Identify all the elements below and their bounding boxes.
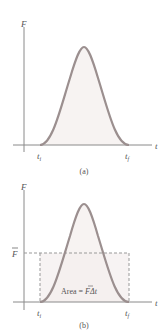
- y-axis-label-a: F: [20, 19, 27, 29]
- t-final-label-a: tf: [125, 151, 131, 162]
- average-force-label: F: [11, 249, 18, 259]
- panel-b: F F t ti tf Area = FΔt (b): [11, 182, 158, 330]
- x-axis-label-a: t: [155, 141, 158, 151]
- x-axis-label-b: t: [155, 298, 158, 308]
- panel-a: F t ti tf (a): [13, 19, 158, 176]
- t-initial-label-a: ti: [37, 151, 42, 162]
- impulse-figure: F t ti tf (a) F F t ti tf Area = FΔt (b): [0, 0, 167, 335]
- area-label: Area = FΔt: [61, 287, 98, 296]
- caption-a: (a): [80, 167, 89, 176]
- caption-b: (b): [79, 321, 89, 330]
- t-final-label-b: tf: [125, 308, 131, 319]
- y-axis-label-b: F: [20, 182, 27, 192]
- t-initial-label-b: ti: [37, 308, 42, 319]
